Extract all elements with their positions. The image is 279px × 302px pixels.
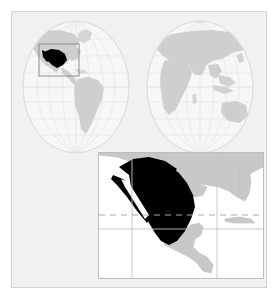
inset-detail-map bbox=[98, 152, 264, 279]
world-hemispheres bbox=[12, 17, 267, 157]
locator-map-figure bbox=[0, 0, 279, 302]
inset-map-svg bbox=[99, 153, 263, 278]
map-panel bbox=[11, 11, 267, 288]
hemispheres-svg bbox=[12, 17, 267, 157]
globe-east bbox=[147, 21, 256, 153]
land-new-zealand bbox=[250, 122, 256, 129]
globe-west bbox=[23, 21, 129, 153]
